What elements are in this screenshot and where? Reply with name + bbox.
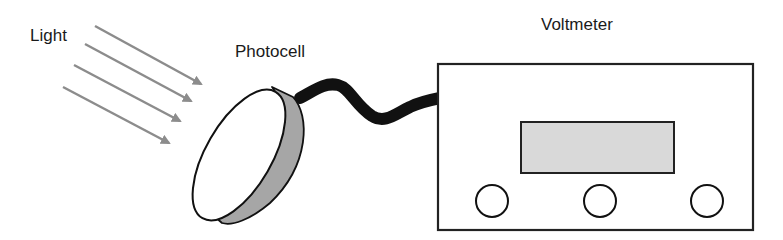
light-ray-arrow-icon	[74, 65, 180, 121]
voltmeter-knob-left[interactable]	[476, 185, 508, 217]
voltmeter-knob-right[interactable]	[691, 185, 723, 217]
cable	[300, 84, 440, 119]
photocell	[174, 75, 304, 234]
voltmeter	[438, 64, 753, 230]
light-ray-arrow-icon	[63, 87, 169, 143]
light-rays	[63, 26, 201, 143]
voltmeter-knob-center[interactable]	[584, 185, 616, 217]
light-ray-arrow-icon	[95, 26, 201, 84]
voltmeter-display	[521, 122, 674, 173]
light-ray-arrow-icon	[85, 44, 191, 101]
photocell-diagram	[0, 0, 783, 240]
